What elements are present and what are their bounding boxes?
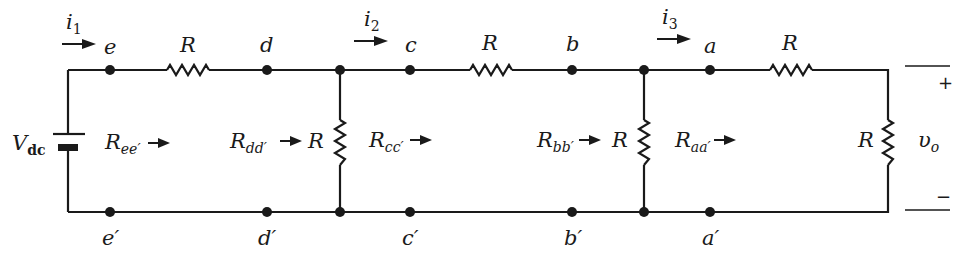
series-resistor-label-2: R <box>482 33 498 54</box>
output-minus-sign: − <box>936 188 951 206</box>
source-label: Vdc <box>12 133 46 157</box>
current-symbol: i <box>662 5 669 29</box>
current-subscript: 3 <box>669 16 678 32</box>
arrow-raa-icon <box>714 135 736 145</box>
shunt-resistor-label-1: R <box>308 131 324 152</box>
node-b <box>567 65 577 75</box>
series-resistor-1 <box>167 65 209 75</box>
shunt-resistor-label-2: R <box>612 130 628 151</box>
output-subscript: o <box>931 139 939 155</box>
req-label-aa: Raa′ <box>675 130 711 154</box>
shunt-resistor-3 <box>883 120 893 165</box>
ladder-circuit-diagram <box>0 0 955 260</box>
req-symbol: R <box>675 128 691 152</box>
node-a <box>705 65 715 75</box>
current-arrow-i3-icon <box>657 34 691 44</box>
node-a-prime <box>705 207 715 217</box>
node-d-prime <box>262 207 272 217</box>
output-plus-sign: + <box>938 74 953 92</box>
battery-icon <box>53 134 85 151</box>
current-subscript: 2 <box>371 18 380 34</box>
source-subscript: dc <box>27 142 45 158</box>
node-e-prime <box>105 207 115 217</box>
series-resistor-label-3: R <box>782 33 798 54</box>
node-e <box>105 65 115 75</box>
req-label-ee: Ree′ <box>105 132 141 156</box>
node-label-a-prime: a′ <box>702 228 719 249</box>
req-subscript: dd′ <box>246 140 267 156</box>
node-label-e: e <box>104 37 116 58</box>
shunt-resistor-2 <box>639 120 649 165</box>
arrow-ree-icon <box>148 138 170 148</box>
current-arrow-i1-icon <box>62 39 96 49</box>
series-resistor-label-1: R <box>180 35 196 56</box>
node-label-c-prime: c′ <box>402 228 419 249</box>
junction-bottom-1 <box>335 207 345 217</box>
junction-top-1 <box>335 65 345 75</box>
req-subscript: cc′ <box>385 139 404 155</box>
current-subscript: 1 <box>73 21 82 37</box>
series-resistor-3 <box>770 65 812 75</box>
req-label-cc: Rcc′ <box>369 130 404 154</box>
req-symbol: R <box>230 129 246 153</box>
bottom-wire <box>68 165 888 212</box>
current-label-i3: i3 <box>662 7 678 31</box>
arrow-rdd-icon <box>280 136 302 146</box>
node-d <box>262 65 272 75</box>
current-symbol: i <box>66 10 73 34</box>
shunt-resistor-1 <box>335 120 345 165</box>
node-label-d-prime: d′ <box>258 228 276 249</box>
req-subscript: bb′ <box>553 139 574 155</box>
req-symbol: R <box>369 128 385 152</box>
output-voltage-label: υo <box>918 130 939 154</box>
req-label-bb: Rbb′ <box>537 130 574 154</box>
top-wire-4 <box>812 70 888 120</box>
source-symbol: V <box>12 131 27 155</box>
req-label-dd: Rdd′ <box>230 131 267 155</box>
node-label-b-prime: b′ <box>564 228 582 249</box>
node-c <box>405 65 415 75</box>
arrow-rbb-icon <box>579 135 601 145</box>
arrow-rcc-icon <box>410 135 432 145</box>
output-symbol: υ <box>918 128 931 152</box>
series-resistor-2 <box>470 65 512 75</box>
req-subscript: aa′ <box>691 139 711 155</box>
current-label-i2: i2 <box>364 9 380 33</box>
node-c-prime <box>405 207 415 217</box>
req-symbol: R <box>105 130 121 154</box>
shunt-resistor-label-3: R <box>858 130 874 151</box>
node-label-b: b <box>566 34 579 55</box>
node-label-c: c <box>405 35 417 56</box>
current-label-i1: i1 <box>66 12 82 36</box>
node-b-prime <box>567 207 577 217</box>
junction-bottom-2 <box>639 207 649 217</box>
req-subscript: ee′ <box>121 141 141 157</box>
current-symbol: i <box>364 7 371 31</box>
node-label-e-prime: e′ <box>102 228 119 249</box>
node-label-a: a <box>704 36 717 57</box>
req-symbol: R <box>537 128 553 152</box>
node-label-d: d <box>260 35 273 56</box>
current-arrow-i2-icon <box>354 36 388 46</box>
junction-top-2 <box>639 65 649 75</box>
